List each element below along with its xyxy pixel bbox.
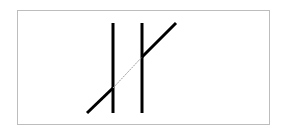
poggendorff-figure bbox=[0, 0, 286, 136]
diagonal-upper-segment bbox=[142, 23, 176, 57]
diagonal-hidden-segment bbox=[113, 57, 142, 88]
diagonal-lower-segment bbox=[87, 88, 113, 113]
